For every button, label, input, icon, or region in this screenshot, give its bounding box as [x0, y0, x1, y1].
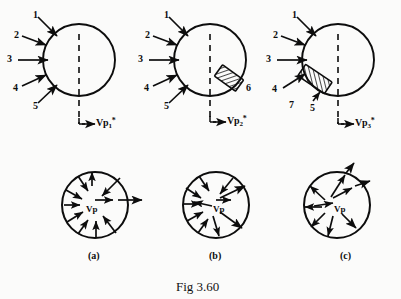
hatched-block-7 — [298, 64, 332, 94]
inner-velocity-label-c: Vp — [334, 205, 346, 214]
callout-b-6: 6 — [246, 83, 251, 93]
callout-b-4: 4 — [144, 83, 149, 93]
callout-c-7: 7 — [289, 100, 294, 110]
callout-b-2: 2 — [145, 30, 150, 40]
velocity-label-a-sup: * — [112, 116, 116, 125]
velocity-label-c: Vp3* — [355, 117, 375, 130]
callout-a-2: 2 — [14, 30, 19, 40]
inner-velocity-label-b: Vp — [213, 205, 225, 214]
velocity-label-c-sup: * — [371, 116, 375, 125]
panel-c-bottom-diagram — [304, 163, 370, 238]
panel-a-bottom-diagram — [62, 172, 142, 238]
callout-c-3: 3 — [266, 54, 271, 64]
callout-b-5: 5 — [164, 101, 169, 111]
hatched-block-6 — [214, 65, 243, 92]
callout-c-5: 5 — [310, 103, 315, 113]
callout-c-1: 1 — [292, 10, 297, 20]
callout-a-5: 5 — [33, 101, 38, 111]
callout-c-4: 4 — [272, 84, 277, 94]
callout-b-1: 1 — [164, 10, 169, 20]
callout-a-4: 4 — [13, 83, 18, 93]
subcaption-c: (c) — [340, 251, 351, 261]
velocity-label-a-text: Vp — [96, 117, 108, 128]
subcaption-b: (b) — [209, 251, 221, 261]
velocity-label-b-text: Vp — [227, 115, 239, 126]
callout-a-3: 3 — [7, 54, 12, 64]
callout-b-3: 3 — [138, 54, 143, 64]
callout-c-2: 2 — [273, 30, 278, 40]
velocity-label-b-sup: * — [243, 114, 247, 123]
callout-a-1: 1 — [33, 10, 38, 20]
velocity-label-b: Vp2* — [227, 115, 247, 128]
velocity-label-a: Vp1* — [96, 117, 116, 130]
figure-page: 1 2 3 4 5 1 2 3 4 5 6 1 2 3 4 5 7 Vp1* V… — [0, 0, 401, 299]
inner-velocity-label-a: Vp — [86, 205, 98, 214]
subcaption-a: (a) — [88, 251, 100, 261]
velocity-label-c-text: Vp — [355, 117, 367, 128]
figure-caption: Fig 3.60 — [176, 280, 219, 293]
